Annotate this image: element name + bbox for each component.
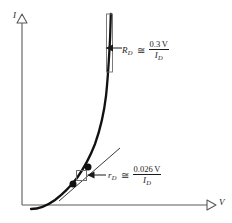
y-axis-arrowhead [17,14,27,23]
dynamic-resistance-annotation: rD ≅ 0.026V ID [108,165,161,187]
static-resistance-relation: ≅ [137,45,145,56]
plot-canvas [0,0,232,223]
dynamic-resistance-denominator: ID [143,175,151,186]
static-resistance-annotation: RD ≅ 0.3V ID [122,40,169,62]
x-axis-arrowhead [207,200,216,210]
static-resistance-fraction: 0.3V ID [149,40,169,62]
dynamic-resistance-fraction: 0.026V ID [133,165,162,187]
static-resistance-numerator: 0.3V [149,40,169,49]
x-axis-label: V [219,198,225,207]
dynamic-resistance-marker [77,171,87,181]
dynamic-resistance-symbol: rD [108,170,117,181]
dynamic-resistance-arrowhead [87,172,95,179]
operating-point-upper-dot [85,164,92,171]
diode-curve [31,14,111,209]
operating-point-lower-dot [70,181,77,188]
static-resistance-symbol: RD [122,45,133,56]
y-axis-label: I [13,11,16,20]
diode-resistance-figure: I V RD ≅ 0.3V ID rD ≅ 0.026V ID [0,0,232,223]
static-resistance-denominator: ID [155,50,163,61]
dynamic-resistance-relation: ≅ [121,170,129,181]
dynamic-resistance-numerator: 0.026V [133,165,162,174]
static-resistance-marker [107,14,113,72]
